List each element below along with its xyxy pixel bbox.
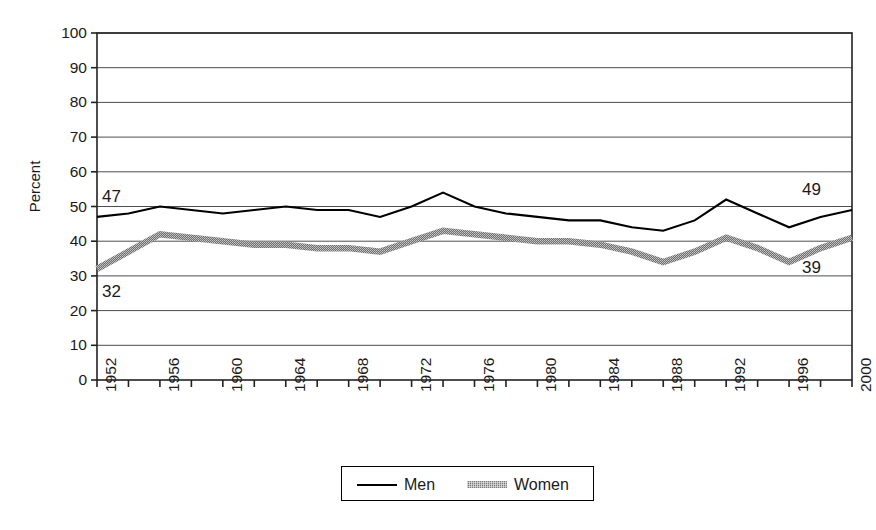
legend-label-men: Men [404,476,435,493]
x-tick-label: 1980 [543,358,559,392]
y-tick-label: 30 [41,268,87,284]
y-tick-label: 70 [41,129,87,145]
x-tick-label: 1956 [166,358,182,392]
x-tick-label: 1996 [795,358,811,392]
y-axis-title: Percent [26,127,43,247]
x-tick-label: 1972 [418,358,434,392]
legend-item-women: Women [467,467,569,502]
x-tick-label: 1960 [229,358,245,392]
data-label-men-2000: 49 [802,181,821,199]
data-label-men-1952: 47 [102,188,121,206]
y-tick-label: 0 [41,372,87,388]
x-tick-label: 1964 [292,358,308,392]
x-tick-label: 1976 [481,358,497,392]
plot-area [0,0,876,530]
y-tick-label: 90 [41,60,87,76]
x-tick-label: 2000 [858,358,874,392]
y-tick-label: 10 [41,337,87,353]
y-tick-label: 40 [41,233,87,249]
x-tick-label: 1968 [355,358,371,392]
y-tick-label: 60 [41,164,87,180]
series-line-women [97,231,852,269]
y-tick-label: 80 [41,94,87,110]
x-tick-label: 1992 [732,358,748,392]
textured-line-swatch-icon [467,481,507,488]
data-label-women-1952: 32 [102,283,121,301]
y-tick-label: 50 [41,199,87,215]
line-swatch-icon [357,484,397,486]
series-line-men [97,193,852,231]
x-tick-label: 1952 [103,358,119,392]
line-chart: Percent 0102030405060708090100 195219561… [0,0,876,530]
legend-label-women: Women [514,476,569,493]
x-tick-label: 1988 [669,358,685,392]
legend-item-men: Men [357,467,435,502]
y-tick-label: 20 [41,303,87,319]
x-tick-label: 1984 [606,358,622,392]
y-tick-label: 100 [41,25,87,41]
legend: Men Women [341,466,594,501]
data-label-women-2000: 39 [802,259,821,277]
